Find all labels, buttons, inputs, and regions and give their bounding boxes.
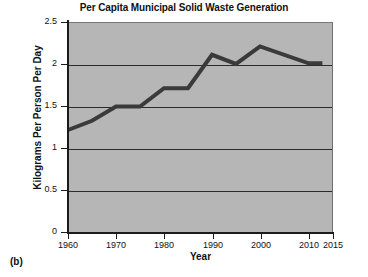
figure-label: (b) — [10, 256, 23, 267]
x-axis-line — [67, 232, 334, 234]
x-tick-label: 2015 — [313, 240, 353, 250]
x-tick-label: 1980 — [144, 240, 184, 250]
y-tick-label: 0.5 — [44, 184, 57, 194]
y-tick-label: 2.5 — [44, 16, 57, 26]
y-axis-title: Kilograms Per Person Per Day — [32, 18, 43, 218]
data-series-line — [68, 23, 332, 232]
y-tick-label: 0 — [52, 226, 57, 236]
chart-title: Per Capita Municipal Solid Waste Generat… — [0, 2, 368, 13]
x-tick-label: 1970 — [96, 240, 136, 250]
plot-area — [68, 22, 333, 232]
x-axis-title: Year — [68, 251, 333, 262]
y-axis-line — [67, 20, 69, 234]
y-tick-label: 1 — [52, 142, 57, 152]
figure-container: Per Capita Municipal Solid Waste Generat… — [0, 0, 368, 277]
x-tick-label: 1960 — [48, 240, 88, 250]
y-tick-label: 1.5 — [44, 100, 57, 110]
y-tick-label: 2 — [52, 58, 57, 68]
x-tick-label: 2000 — [241, 240, 281, 250]
x-tick-label: 1990 — [193, 240, 233, 250]
